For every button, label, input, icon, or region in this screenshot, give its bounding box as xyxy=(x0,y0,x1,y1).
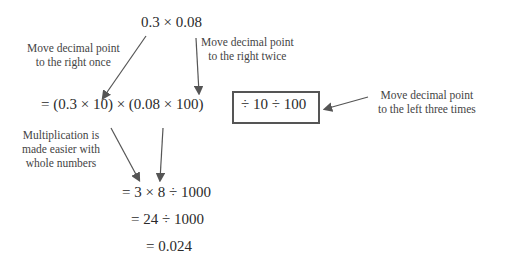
arrow-left-three xyxy=(325,97,368,109)
expression-boxed: ÷ 10 ÷ 100 xyxy=(241,96,306,113)
expression-line2: = 3 × 8 ÷ 1000 xyxy=(122,184,211,201)
expression-line4: = 0.024 xyxy=(146,238,192,255)
note-whole-numbers: Multiplication is made easier with whole… xyxy=(22,128,100,170)
note-left-three: Move decimal point to the left three tim… xyxy=(378,88,476,116)
expression-line1: = (0.3 × 10) × (0.08 × 100) xyxy=(41,96,204,113)
note-right-once: Move decimal point to the right once xyxy=(27,41,120,69)
expression-line3: = 24 ÷ 1000 xyxy=(131,211,204,228)
arrow-right-twice xyxy=(196,38,199,93)
arrow-whole-2 xyxy=(160,128,163,180)
expression-top: 0.3 × 0.08 xyxy=(141,14,202,31)
note-right-twice: Move decimal point to the right twice xyxy=(201,35,294,63)
arrow-whole-1 xyxy=(111,128,139,180)
